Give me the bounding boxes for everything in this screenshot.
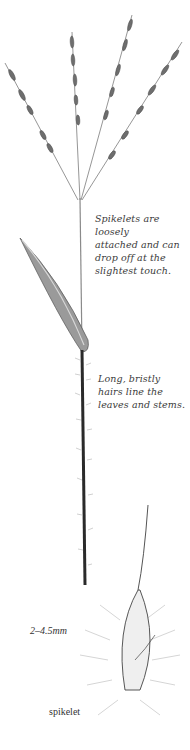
- spikelet-detail: [80, 505, 180, 715]
- hairs-annotation: Long, bristly hairs line the leaves and …: [98, 372, 190, 411]
- leaf: [20, 238, 88, 352]
- spikelet-caption: spikelet: [49, 706, 80, 717]
- spikelets-annotation: Spikelets are loosely attached and can d…: [95, 212, 190, 277]
- spikelets-on-branches: [7, 19, 180, 161]
- size-label: 2–4.5mm: [30, 625, 67, 636]
- panicle: [5, 15, 182, 200]
